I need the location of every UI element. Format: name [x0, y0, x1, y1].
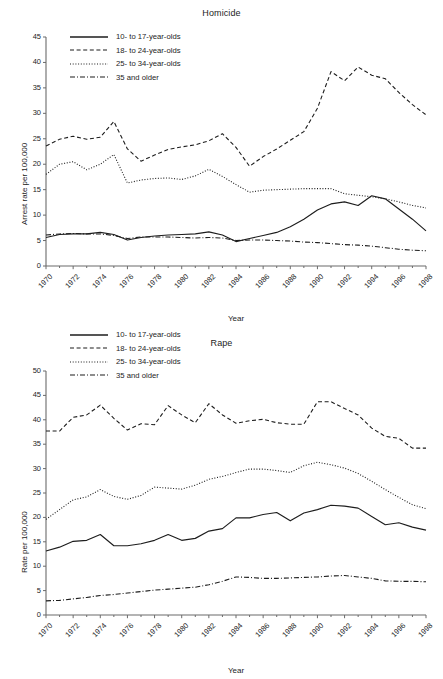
- homicide-y-tick-label: 20: [33, 159, 41, 168]
- homicide-y-tick-label: 0: [37, 261, 41, 270]
- series-line: [46, 505, 426, 551]
- rape-y-tick-label: 40: [33, 415, 41, 424]
- homicide-legend: 10- to 17-year-olds18- to 24-year-olds25…: [68, 30, 181, 84]
- legend-line-swatch-dashdot: [68, 370, 110, 380]
- rape-y-tick-label: 5: [37, 586, 41, 595]
- rape-legend-label: 35 and older: [116, 371, 159, 380]
- homicide-legend-item: 35 and older: [68, 71, 181, 85]
- rape-legend-item: 25- to 34-year-olds: [68, 355, 181, 369]
- homicide-legend-label: 10- to 17-year-olds: [116, 32, 181, 41]
- rape-legend-item: 18- to 24-year-olds: [68, 342, 181, 356]
- rape-y-tick-label: 45: [33, 390, 41, 399]
- rape-y-tick-label: 15: [33, 537, 41, 546]
- rape-legend-item: 10- to 17-year-olds: [68, 328, 181, 342]
- homicide-legend-item: 25- to 34-year-olds: [68, 57, 181, 71]
- rape-y-tick-label: 30: [33, 464, 41, 473]
- homicide-y-tick-label: 25: [33, 134, 41, 143]
- rape-legend-label: 25- to 34-year-olds: [116, 357, 181, 366]
- rape-chart-figure: Rape Rate per 100,000 Year 10- to 17-yea…: [0, 325, 443, 679]
- series-line: [46, 402, 426, 448]
- homicide-y-tick-label: 10: [33, 210, 41, 219]
- homicide-y-tick-label: 15: [33, 185, 41, 194]
- homicide-legend-label: 18- to 24-year-olds: [116, 46, 181, 55]
- rape-y-tick-label: 20: [33, 512, 41, 521]
- series-line: [46, 155, 426, 208]
- legend-line-swatch-solid: [68, 330, 110, 340]
- rape-legend-label: 18- to 24-year-olds: [116, 344, 181, 353]
- rape-legend-item: 35 and older: [68, 369, 181, 383]
- legend-line-swatch-dotted: [68, 357, 110, 367]
- homicide-y-tick-label: 40: [33, 57, 41, 66]
- homicide-y-tick-label: 45: [33, 32, 41, 41]
- rape-y-tick-label: 35: [33, 439, 41, 448]
- series-line: [46, 575, 426, 600]
- homicide-y-tick-label: 35: [33, 83, 41, 92]
- homicide-legend-label: 25- to 34-year-olds: [116, 59, 181, 68]
- homicide-chart-figure: Homicide Arrest rate per 100,000 Year 10…: [0, 0, 443, 340]
- series-line: [46, 462, 426, 519]
- homicide-legend-item: 18- to 24-year-olds: [68, 44, 181, 58]
- rape-y-tick-label: 0: [37, 610, 41, 619]
- rape-y-tick-label: 50: [33, 366, 41, 375]
- homicide-y-tick-label: 30: [33, 108, 41, 117]
- rape-legend-label: 10- to 17-year-olds: [116, 330, 181, 339]
- legend-line-swatch-dashed: [68, 45, 110, 55]
- homicide-y-tick-label: 5: [37, 236, 41, 245]
- homicide-legend-item: 10- to 17-year-olds: [68, 30, 181, 44]
- rape-y-tick-label: 25: [33, 488, 41, 497]
- legend-line-swatch-solid: [68, 32, 110, 42]
- legend-line-swatch-dashdot: [68, 72, 110, 82]
- rape-legend: 10- to 17-year-olds18- to 24-year-olds25…: [68, 328, 181, 382]
- legend-line-swatch-dashed: [68, 343, 110, 353]
- rape-y-tick-label: 10: [33, 561, 41, 570]
- homicide-legend-label: 35 and older: [116, 73, 159, 82]
- legend-line-swatch-dotted: [68, 59, 110, 69]
